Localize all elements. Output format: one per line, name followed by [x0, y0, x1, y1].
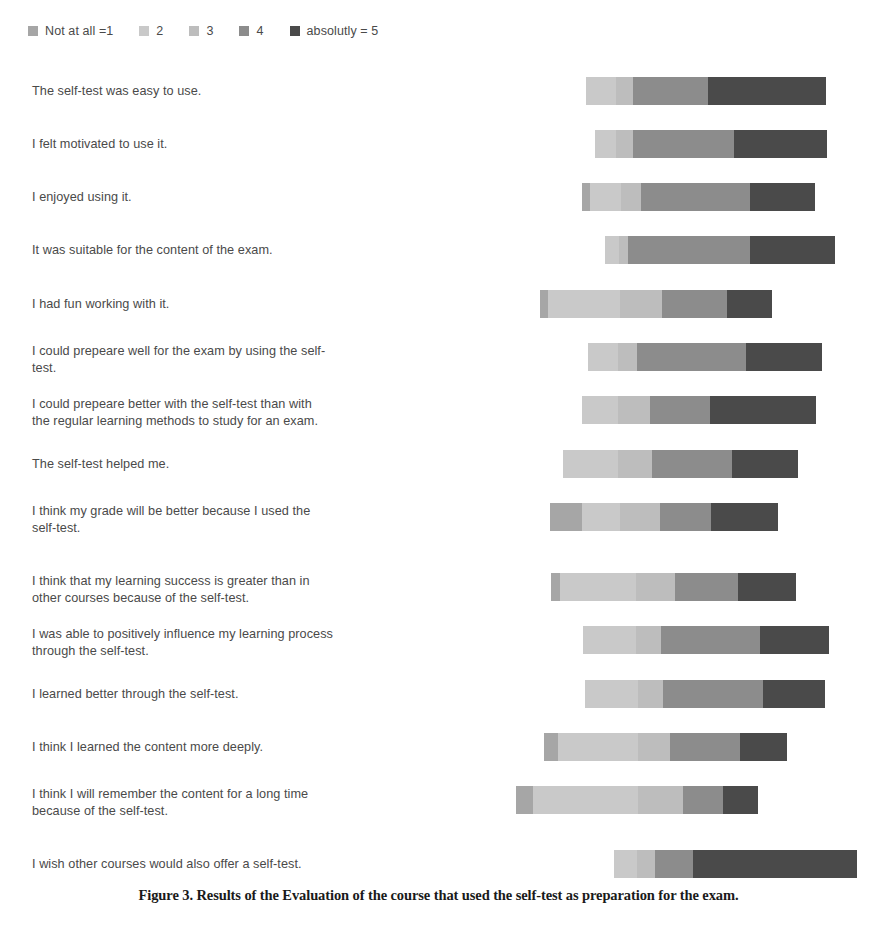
- chart-row-label: I felt motivated to use it.: [32, 136, 352, 153]
- bar-segment-4: [652, 450, 732, 478]
- bar-segment-4: [670, 733, 740, 761]
- chart-row-label: I could prepeare better with the self-te…: [32, 396, 352, 430]
- bar-segment-4: [683, 786, 723, 814]
- bar-segment-4: [655, 850, 693, 878]
- chart-row-label: It was suitable for the content of the e…: [32, 242, 352, 259]
- chart-row-label-line: I was able to positively influence my le…: [32, 626, 352, 643]
- bar-segment-4: [650, 396, 710, 424]
- bar-segment-3: [620, 290, 662, 318]
- chart-row-label: I enjoyed using it.: [32, 189, 352, 206]
- chart-row-label-line: I learned better through the self-test.: [32, 686, 352, 703]
- legend-label: Not at all =1: [45, 24, 113, 38]
- bar-segment-1: [544, 733, 558, 761]
- stacked-bar: [588, 343, 822, 371]
- bar-segment-4: [662, 290, 727, 318]
- chart-row-label-line: the regular learning methods to study fo…: [32, 413, 352, 430]
- bar-segment-2: [583, 626, 636, 654]
- stacked-bar: [540, 290, 772, 318]
- bar-segment-4: [663, 680, 763, 708]
- figure-caption: Figure 3. Results of the Evaluation of t…: [0, 886, 877, 905]
- legend-label: 4: [256, 24, 263, 38]
- bar-segment-5: [693, 850, 857, 878]
- stacked-bar: [583, 626, 829, 654]
- stacked-bar: [516, 786, 758, 814]
- bar-segment-2: [588, 343, 618, 371]
- bar-segment-2: [585, 680, 638, 708]
- chart-row-label-line: I wish other courses would also offer a …: [32, 856, 352, 873]
- chart-row-label-line: I think that my learning success is grea…: [32, 573, 352, 590]
- bar-segment-5: [763, 680, 825, 708]
- bar-segment-2: [586, 77, 616, 105]
- bar-segment-3: [636, 573, 675, 601]
- bar-segment-5: [760, 626, 829, 654]
- bar-segment-3: [618, 343, 637, 371]
- chart-row-label-line: I could prepeare better with the self-te…: [32, 396, 352, 413]
- legend-swatch-icon: [239, 26, 249, 36]
- bar-segment-5: [708, 77, 826, 105]
- chart-row-label-line: It was suitable for the content of the e…: [32, 242, 352, 259]
- stacked-bar: [605, 236, 835, 264]
- bar-segment-2: [558, 733, 638, 761]
- chart-row-label: The self-test was easy to use.: [32, 83, 352, 100]
- bar-segment-2: [560, 573, 636, 601]
- bar-segment-3: [638, 680, 663, 708]
- bar-segment-5: [734, 130, 827, 158]
- chart-row-label-line: test.: [32, 360, 352, 377]
- chart-row-label: I think that my learning success is grea…: [32, 573, 352, 607]
- stacked-bar: [595, 130, 827, 158]
- bar-segment-2: [595, 130, 616, 158]
- bar-segment-3: [636, 626, 661, 654]
- bar-segment-2: [563, 450, 618, 478]
- bar-segment-4: [660, 503, 711, 531]
- bar-segment-5: [727, 290, 772, 318]
- bar-segment-2: [590, 183, 621, 211]
- bar-segment-5: [738, 573, 796, 601]
- legend-swatch-icon: [28, 26, 38, 36]
- chart-row-label-line: I think my grade will be better because …: [32, 503, 352, 520]
- chart-row-label: I could prepeare well for the exam by us…: [32, 343, 352, 377]
- chart-row-label-line: I enjoyed using it.: [32, 189, 352, 206]
- legend-swatch-icon: [189, 26, 199, 36]
- legend-label: 2: [156, 24, 163, 38]
- chart-row-label: I think I learned the content more deepl…: [32, 739, 352, 756]
- bar-segment-1: [516, 786, 533, 814]
- bar-segment-2: [548, 290, 620, 318]
- stacked-bar: [544, 733, 787, 761]
- chart-row-label-line: I think I learned the content more deepl…: [32, 739, 352, 756]
- chart-row-label-line: The self-test helped me.: [32, 456, 352, 473]
- chart-row-label: I wish other courses would also offer a …: [32, 856, 352, 873]
- bar-segment-2: [533, 786, 638, 814]
- bar-segment-4: [633, 77, 708, 105]
- stacked-bar: [614, 850, 857, 878]
- bar-segment-3: [616, 77, 633, 105]
- bar-segment-2: [582, 503, 620, 531]
- chart-row-label: I think I will remember the content for …: [32, 786, 352, 820]
- bar-segment-3: [620, 503, 660, 531]
- bar-segment-4: [675, 573, 738, 601]
- legend-swatch-icon: [290, 26, 300, 36]
- chart-row-label-line: I think I will remember the content for …: [32, 786, 352, 803]
- legend-label: absolutly = 5: [307, 24, 379, 38]
- bar-segment-5: [710, 396, 816, 424]
- chart-row-label-line: I could prepeare well for the exam by us…: [32, 343, 352, 360]
- stacked-bar: [586, 77, 826, 105]
- bar-segment-5: [750, 236, 835, 264]
- legend-label: 3: [206, 24, 213, 38]
- stacked-bar: [582, 396, 816, 424]
- chart-row-label-line: I felt motivated to use it.: [32, 136, 352, 153]
- bar-segment-4: [641, 183, 750, 211]
- chart-row-label-line: I had fun working with it.: [32, 296, 352, 313]
- bar-segment-5: [711, 503, 778, 531]
- bar-segment-3: [619, 236, 628, 264]
- legend-item-4: 4: [239, 24, 263, 38]
- bar-segment-3: [618, 396, 650, 424]
- bar-segment-5: [740, 733, 787, 761]
- bar-segment-3: [616, 130, 633, 158]
- bar-segment-3: [621, 183, 641, 211]
- bar-segment-2: [582, 396, 618, 424]
- legend-swatch-icon: [139, 26, 149, 36]
- bar-segment-4: [661, 626, 760, 654]
- legend-item-3: 3: [189, 24, 213, 38]
- chart-row-label-line: other courses because of the self-test.: [32, 590, 352, 607]
- chart-row-label: I think my grade will be better because …: [32, 503, 352, 537]
